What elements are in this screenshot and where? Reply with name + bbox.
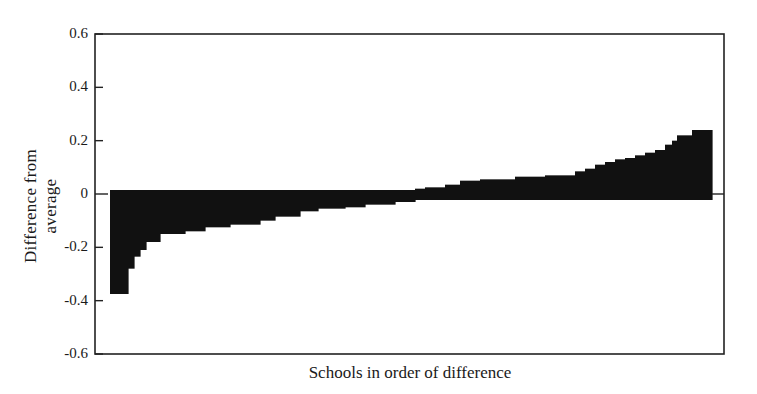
bar bbox=[665, 145, 673, 200]
bar bbox=[134, 190, 141, 257]
bar bbox=[672, 141, 678, 200]
bar bbox=[140, 190, 147, 250]
bar bbox=[205, 190, 231, 227]
bar bbox=[415, 189, 426, 200]
y-axis-ticks bbox=[95, 34, 108, 354]
bar bbox=[300, 190, 319, 211]
x-axis-label: Schools in order of difference bbox=[250, 363, 570, 383]
bar bbox=[615, 159, 626, 200]
bar bbox=[260, 190, 276, 221]
bar bbox=[318, 190, 346, 209]
bar bbox=[110, 190, 129, 294]
bar bbox=[460, 181, 481, 200]
y-tick-label: 0.6 bbox=[48, 25, 88, 42]
bar bbox=[575, 171, 586, 200]
bar bbox=[605, 162, 616, 200]
bar bbox=[275, 190, 301, 217]
bar bbox=[692, 130, 713, 200]
bar bbox=[230, 190, 261, 225]
bar bbox=[395, 190, 416, 202]
bar bbox=[585, 169, 596, 200]
y-tick-label: -0.4 bbox=[48, 292, 88, 309]
bar bbox=[345, 190, 366, 207]
y-tick-label: -0.6 bbox=[48, 345, 88, 362]
bar bbox=[595, 165, 606, 200]
bar bbox=[677, 135, 693, 200]
bar bbox=[146, 190, 161, 242]
bar bbox=[635, 155, 646, 200]
bar bbox=[128, 190, 135, 269]
bar bbox=[445, 185, 461, 200]
bar bbox=[425, 187, 446, 200]
bar bbox=[645, 153, 656, 200]
bar bbox=[365, 190, 396, 205]
bar-series bbox=[110, 130, 713, 294]
bar bbox=[185, 190, 206, 231]
bar bbox=[545, 175, 576, 200]
y-axis-label: Difference from average bbox=[21, 121, 61, 291]
y-tick-label: 0.4 bbox=[48, 78, 88, 95]
bar bbox=[160, 190, 186, 234]
bar bbox=[625, 158, 636, 200]
bar bbox=[515, 177, 546, 200]
bar bbox=[480, 179, 516, 200]
chart-canvas bbox=[0, 0, 757, 394]
bar bbox=[655, 150, 666, 200]
